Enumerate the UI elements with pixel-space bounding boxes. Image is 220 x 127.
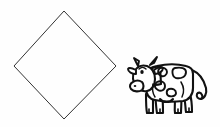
line-drawing-svg	[0, 0, 220, 127]
cow-eye	[140, 70, 143, 74]
drawing-canvas	[0, 0, 220, 127]
cow-muzzle	[130, 81, 144, 92]
cow-nostril	[134, 85, 137, 87]
